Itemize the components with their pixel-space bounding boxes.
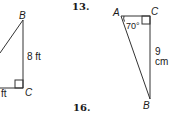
vertex-label-c: C [151,7,158,17]
problem-number-16: 16. [73,102,90,113]
side-length-label-9cm: 9 cm [155,47,175,67]
vertex-label-c-left: C [25,88,32,98]
right-angle-marker [142,16,150,24]
problem-number-13: 13. [72,1,89,12]
hypotenuse-line [0,20,23,53]
vertex-label-b: B [143,101,150,111]
side-length-label-8ft: 8 ft [27,52,41,62]
side-length-label-ft: ft [1,89,7,99]
angle-arc [124,16,125,22]
vertex-label-a: A [113,8,120,18]
right-angle-marker [15,80,23,88]
angle-label-70: 70° [126,22,140,31]
worksheet-figure: 13. 16. B C 8 ft ft A C B 70° 9 cm [0,0,175,115]
vertex-label-b-left: B [19,11,26,21]
left-triangle [0,20,23,88]
